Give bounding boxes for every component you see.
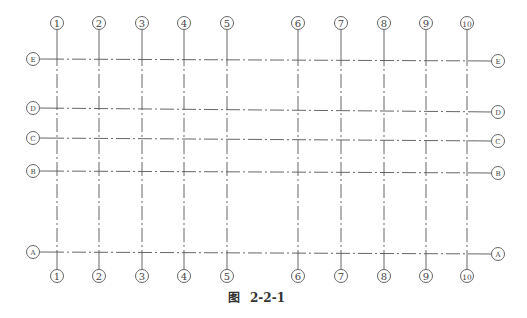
row-axis-bubble-right-C-label: C [495,138,500,146]
figure-prefix: 图 [228,291,240,305]
column-axis-bubble-bottom-2-label: 2 [96,271,102,282]
column-axis-bubble-bottom-7-label: 7 [338,271,344,282]
column-axis-bubble-top-1-label: 1 [54,18,60,29]
row-axis-line-B [50,171,475,173]
column-axis-bubble-bottom-8-label: 8 [381,271,387,282]
column-axis-bubble-bottom-1-label: 1 [54,271,60,282]
row-axis-bubble-left-D-label: D [30,105,36,113]
column-axis-bubble-top-5-label: 5 [224,18,230,29]
column-axis-bubble-bottom-4-label: 4 [181,271,187,282]
row-axis-bubble-right-B-label: B [495,170,500,178]
figure-number: 2-2-1 [250,291,285,305]
row-axis-line-C [50,138,475,141]
column-axis-bubble-bottom-3-label: 3 [139,271,145,282]
column-axis-bubble-bottom-9-label: 9 [423,271,429,282]
row-axis-line-D [50,108,475,112]
column-axis-bubble-top-4-label: 4 [181,18,187,29]
column-axis-bubble-bottom-10-label: 10 [462,273,472,282]
figure-caption: 图2-2-1 [228,288,308,306]
row-axis-bubble-right-D-label: D [495,109,501,117]
row-axis-bubble-right-E-label: E [495,58,500,66]
column-axis-bubble-bottom-5-label: 5 [224,271,230,282]
row-axis-line-E [50,59,475,61]
column-axis-bubble-top-7-label: 7 [338,18,344,29]
column-axis-bubble-bottom-6-label: 6 [295,271,301,282]
column-axis-bubble-top-9-label: 9 [423,18,429,29]
column-axis-bubble-top-10-label: 10 [462,20,472,29]
row-axis-bubble-left-B-label: B [30,168,35,176]
column-axis-bubble-top-8-label: 8 [381,18,387,29]
column-axis-bubble-top-6-label: 6 [295,18,301,29]
row-axis-bubble-left-E-label: E [30,56,35,64]
row-axis-bubble-left-A-label: A [29,249,36,257]
column-axis-bubble-top-2-label: 2 [96,18,102,29]
row-axis-line-A [50,252,475,254]
column-axis-bubble-top-3-label: 3 [139,18,145,29]
row-axis-bubble-right-A-label: A [494,251,501,259]
axis-grid-diagram: EEDDCCBBAA1122334455667788991010 [0,0,527,318]
row-axis-bubble-left-C-label: C [30,135,35,143]
